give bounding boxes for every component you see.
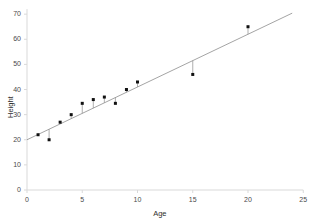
scatter-chart: 0102030405060700510152025 Age Height (0, 0, 327, 223)
y-tick-label: 50 (1, 60, 21, 67)
data-point-marker (191, 73, 194, 76)
data-point-marker (48, 138, 51, 141)
x-tick-label: 25 (293, 196, 313, 203)
y-tick-label: 70 (1, 10, 21, 17)
data-point-marker (114, 102, 117, 105)
data-point-marker (92, 98, 95, 101)
data-point-marker (81, 102, 84, 105)
y-tick-label: 60 (1, 35, 21, 42)
y-tick-label: 0 (1, 186, 21, 193)
data-point-marker (103, 96, 106, 99)
data-point-marker (37, 133, 40, 136)
data-point-marker (125, 88, 128, 91)
data-point-marker (247, 25, 250, 28)
x-tick-label: 10 (128, 196, 148, 203)
x-tick-label: 0 (17, 196, 37, 203)
x-tick-label: 5 (72, 196, 92, 203)
x-axis-title: Age (153, 210, 166, 218)
y-tick-label: 20 (1, 136, 21, 143)
data-point-marker (136, 80, 139, 83)
y-tick-label: 40 (1, 86, 21, 93)
y-tick-label: 10 (1, 161, 21, 168)
plot-area (0, 0, 327, 223)
data-point-marker (59, 121, 62, 124)
y-axis-title: Height (7, 96, 15, 118)
data-point-marker (70, 113, 73, 116)
x-tick-label: 15 (183, 196, 203, 203)
x-tick-label: 20 (238, 196, 258, 203)
